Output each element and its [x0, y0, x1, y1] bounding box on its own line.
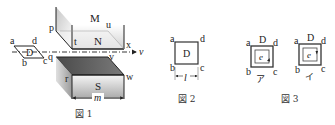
opt-i-label-D: D	[307, 32, 314, 43]
corner-x: x	[126, 39, 131, 50]
opt-a-corner-d: d	[273, 37, 278, 48]
side-label-l: l	[184, 72, 187, 83]
opt-i-corner-a: a	[294, 35, 299, 46]
corner-w: w	[126, 71, 134, 82]
option-i: a D d b c e イ	[294, 32, 326, 82]
fig2-corner-d: d	[200, 33, 205, 44]
fig2-label-D: D	[183, 48, 190, 59]
velocity-label: v	[139, 46, 144, 57]
fig2-corner-c: c	[200, 62, 205, 73]
caption-figure-3: 図 3	[281, 94, 299, 104]
opt-a-corner-a: a	[246, 37, 251, 48]
corner-p: p	[49, 22, 54, 33]
loop-corner-d: d	[32, 35, 37, 46]
opt-i-corner-c: c	[321, 63, 326, 74]
label-M: M	[90, 12, 100, 24]
opt-i-label: イ	[305, 72, 314, 82]
loop-label-D: D	[26, 47, 33, 58]
corner-q: q	[48, 51, 53, 62]
opt-i-corner-b: b	[295, 64, 300, 75]
fig2-corner-b: b	[170, 62, 175, 73]
current-arrow-icon	[267, 58, 270, 62]
figure-2: a d b c D l 図 2	[170, 33, 205, 104]
corner-v: v	[109, 51, 114, 62]
loop-corner-a: a	[10, 35, 15, 46]
label-N: N	[94, 35, 102, 47]
current-arrow-icon	[316, 51, 319, 55]
opt-a-corner-c: c	[273, 66, 278, 77]
loop-d-perspective: a d b c D	[10, 35, 48, 68]
caption-figure-2: 図 2	[178, 94, 196, 104]
option-a: a D d b c e ア	[246, 34, 278, 84]
opt-i-corner-d: d	[321, 35, 326, 46]
opt-a-label: ア	[256, 74, 265, 84]
opt-i-emf: e	[307, 50, 311, 60]
opt-a-emf: e	[259, 52, 263, 62]
loop-corner-b: b	[22, 57, 27, 68]
magnet-n: p t u x M N	[49, 7, 131, 50]
opt-a-corner-b: b	[246, 66, 251, 77]
figure-3: a D d b c e ア a D d b c e イ 図 3	[246, 32, 326, 104]
figure-1: p t u x M N v a d b c D q r	[10, 7, 144, 119]
opt-a-label-D: D	[259, 34, 266, 45]
label-S: S	[95, 80, 101, 92]
caption-figure-1: 図 1	[75, 109, 93, 119]
width-label-m: m	[94, 92, 101, 103]
fig2-corner-a: a	[170, 33, 175, 44]
corner-u: u	[106, 19, 111, 30]
corner-t: t	[74, 36, 77, 47]
magnet-s: q r v w S	[48, 51, 134, 99]
